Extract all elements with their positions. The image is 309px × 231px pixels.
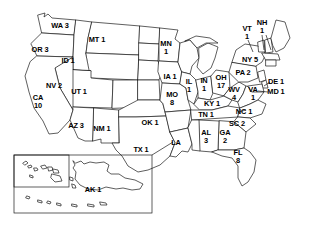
state-nd — [139, 26, 160, 44]
state-wa — [38, 13, 76, 35]
state-ks — [138, 80, 160, 100]
state-fl — [212, 148, 256, 186]
state-tx — [112, 116, 175, 172]
state-vt — [258, 40, 265, 52]
state-mi — [197, 43, 218, 74]
state-me — [271, 20, 290, 52]
state-az — [70, 107, 94, 141]
hawaii-islands — [23, 161, 62, 182]
inset-border-hawaii — [14, 155, 69, 187]
state-al — [199, 120, 219, 152]
state-outlines — [25, 13, 290, 186]
state-mt — [86, 22, 140, 55]
state-nm — [93, 108, 119, 143]
state-ct — [266, 60, 276, 66]
us-map-svg — [0, 0, 309, 231]
state-ma — [262, 53, 280, 60]
state-mn — [159, 28, 180, 62]
state-ia — [158, 61, 182, 84]
state-sd — [139, 43, 159, 61]
state-in — [196, 76, 213, 100]
state-or — [31, 33, 74, 57]
state-wy — [86, 53, 139, 80]
state-nj — [258, 70, 266, 82]
us-map: WA 3OR 3ID 1MT 1NV 2UT 1CA10AZ 3NM 1MN1I… — [0, 0, 309, 231]
